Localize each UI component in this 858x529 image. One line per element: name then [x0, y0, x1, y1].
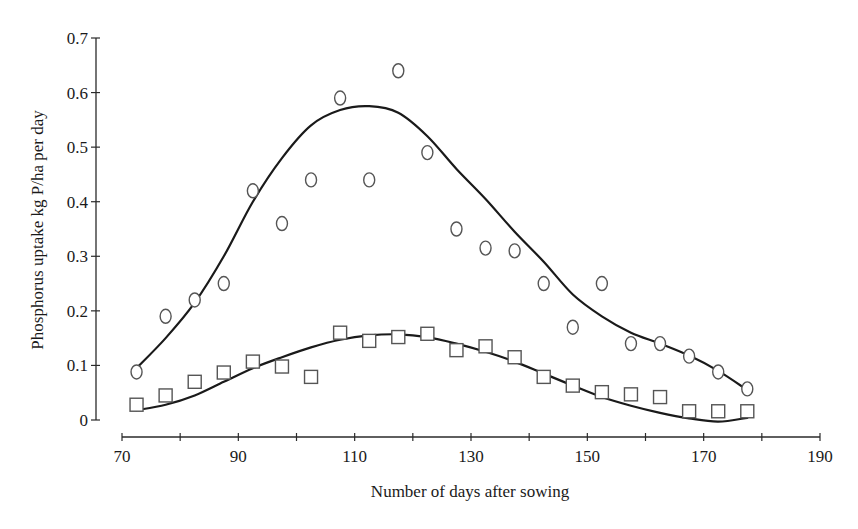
circle-data-point: [393, 64, 404, 78]
circle-data-point: [480, 241, 491, 255]
circle-data-point: [538, 277, 549, 291]
square-data-point: [305, 370, 318, 383]
square-data-point: [479, 340, 492, 353]
square-data-point: [741, 405, 754, 418]
circle-data-point: [509, 244, 520, 258]
y-tick-label: 0.6: [67, 84, 88, 103]
circle-data-point: [625, 337, 636, 351]
circle-data-point: [247, 184, 258, 198]
y-tick-label: 0.3: [67, 247, 88, 266]
circle-data-point: [364, 173, 375, 187]
x-tick-label: 190: [807, 447, 833, 466]
circle-data-point: [596, 277, 607, 291]
circle-data-point: [276, 217, 287, 231]
x-tick-label: 110: [342, 447, 367, 466]
square-data-point: [595, 386, 608, 399]
square-data-point: [275, 360, 288, 373]
square-data-point: [246, 355, 259, 368]
square-data-point: [654, 391, 667, 404]
square-data-point: [392, 331, 405, 344]
circle-data-point: [451, 222, 462, 236]
circle-data-point: [131, 365, 142, 379]
square-data-point: [508, 351, 521, 364]
square-data-point: [334, 326, 347, 339]
y-axis: 00.10.20.30.40.50.60.7: [67, 29, 100, 430]
circle-data-point: [335, 91, 346, 105]
circle-data-point: [655, 337, 666, 351]
square-data-point: [421, 327, 434, 340]
circle-data-point: [684, 349, 695, 363]
circle-data-point: [713, 365, 724, 379]
x-tick-label: 130: [458, 447, 484, 466]
square-data-point: [683, 405, 696, 418]
data-markers: [130, 64, 754, 418]
square-data-point: [363, 334, 376, 347]
square-data-point: [217, 366, 230, 379]
x-axis-label: Number of days after sowing: [371, 482, 570, 501]
phosphorus-uptake-chart: 00.10.20.30.40.50.60.7 70901101301501701…: [0, 0, 858, 529]
circle-data-point: [422, 146, 433, 160]
y-tick-label: 0.7: [67, 29, 89, 48]
y-tick-label: 0.2: [67, 302, 88, 321]
circle-data-point: [218, 277, 229, 291]
y-tick-label: 0.4: [67, 193, 89, 212]
x-tick-label: 90: [230, 447, 247, 466]
circle-data-point: [567, 320, 578, 334]
square-data-point: [624, 388, 637, 401]
y-tick-label: 0.1: [67, 356, 88, 375]
square-data-point: [537, 370, 550, 383]
circle-data-point: [189, 293, 200, 307]
x-tick-label: 150: [575, 447, 601, 466]
circle-data-point: [306, 173, 317, 187]
square-data-point: [130, 398, 143, 411]
circle-data-point: [160, 309, 171, 323]
square-data-point: [566, 379, 579, 392]
y-tick-label: 0.5: [67, 138, 88, 157]
square-data-point: [159, 389, 172, 402]
x-axis: 7090110130150170190: [114, 433, 833, 466]
x-tick-label: 70: [114, 447, 131, 466]
square-data-point: [712, 405, 725, 418]
x-tick-label: 170: [691, 447, 717, 466]
circle-data-point: [742, 382, 753, 396]
y-tick-label: 0: [80, 411, 89, 430]
square-data-point: [188, 375, 201, 388]
square-data-point: [450, 344, 463, 357]
y-axis-label: Phosphorus uptake kg P/ha per day: [28, 110, 47, 350]
